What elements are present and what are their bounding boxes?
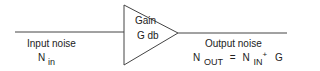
input-n: N [38,52,45,63]
plus-sign: + [262,50,267,59]
gain-value-label: G db [137,31,159,41]
input-subscript: in [48,57,55,67]
gain-symbol: G [275,52,283,63]
input-noise-symbol: N in [38,53,55,63]
rhs-n: N [242,52,249,63]
output-subscript: OUT [204,57,223,67]
gain-label: Gain [135,16,156,26]
output-noise-caption: Output noise [205,39,262,49]
output-noise-formula: N OUT = N IN+ G [193,53,283,63]
output-n: N [193,52,200,63]
input-noise-caption: Input noise [27,39,76,49]
equals-sign: = [230,52,236,63]
